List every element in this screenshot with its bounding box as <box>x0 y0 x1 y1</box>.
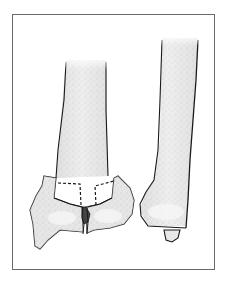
radius-shaft <box>56 56 112 178</box>
ulna <box>140 34 202 242</box>
radius-distal-fragments <box>30 176 134 249</box>
bone-illustration <box>0 0 227 283</box>
